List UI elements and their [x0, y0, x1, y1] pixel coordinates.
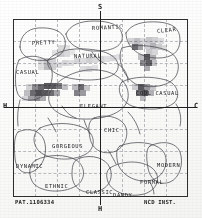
axis-stub-top — [100, 11, 101, 19]
region-label-cool-casual: COOL CASUAL — [136, 91, 179, 96]
axis-stub-bottom — [100, 197, 101, 205]
region-label-dynamic: DYNAMIC — [16, 164, 43, 169]
region-label-formal: FORMAL — [140, 180, 163, 185]
region-label-modern: MODERN — [157, 163, 180, 168]
region-label-dandy: DANDY — [113, 193, 132, 198]
axis-label-top: S — [98, 4, 102, 11]
footer-patent-number: PAT.1106334 — [15, 200, 54, 206]
region-label-ethnic: ETHNIC — [45, 184, 68, 189]
region-label-casual: CASUAL — [16, 70, 39, 75]
image-scale-map-page: S H H C ROMANTICCLEARPRETTYNATURALCASUAL… — [0, 0, 202, 218]
region-label-chic: CHIC — [104, 128, 120, 133]
region-label-elegant: ELEGANT — [80, 104, 107, 109]
footer-institute: NCD INST. — [144, 200, 176, 206]
region-label-gorgeous: GORGEOUS — [52, 144, 83, 149]
region-label-natural: NATURAL — [74, 54, 101, 60]
axis-label-right: C — [194, 103, 198, 110]
axis-label-left: H — [3, 103, 7, 110]
region-label-classic: CLASSIC — [86, 190, 113, 195]
axis-label-bottom: H — [98, 206, 102, 213]
